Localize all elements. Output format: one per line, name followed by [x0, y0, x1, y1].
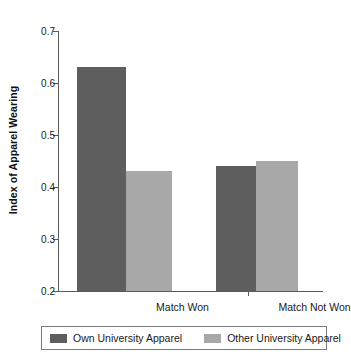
- y-axis-tick-label: 0.2: [41, 286, 55, 297]
- x-axis-tick: [248, 291, 249, 296]
- y-axis-title: Index of Apparel Wearing: [0, 0, 26, 300]
- legend-swatch-icon: [204, 334, 221, 343]
- legend-item-label: Other University Apparel: [227, 332, 341, 344]
- bar: [77, 67, 126, 291]
- legend-swatch-icon: [50, 334, 67, 343]
- y-axis-title-text: Index of Apparel Wearing: [7, 86, 19, 214]
- legend-item[interactable]: Other University Apparel: [204, 332, 341, 344]
- x-axis-tick-label: Match Not Won: [278, 301, 350, 313]
- y-axis-tick-label: 0.4: [41, 182, 55, 193]
- x-axis-tick-label: Match Won: [156, 301, 209, 313]
- y-axis-tick-label: 0.7: [41, 26, 55, 37]
- x-axis-line: [58, 291, 323, 292]
- bar: [216, 166, 256, 291]
- legend-item-label: Own University Apparel: [73, 332, 182, 344]
- y-axis-tick-label: 0.3: [41, 234, 55, 245]
- plot-area: 0.70.60.50.40.30.2 Match WonMatch Not Wo…: [58, 31, 323, 291]
- bar: [256, 161, 298, 291]
- chart-legend: Own University ApparelOther University A…: [41, 326, 327, 350]
- bar: [126, 171, 172, 291]
- y-axis-tick-label: 0.6: [41, 78, 55, 89]
- legend-item[interactable]: Own University Apparel: [50, 332, 182, 344]
- y-axis-tick-label: 0.5: [41, 130, 55, 141]
- y-axis-line: [58, 31, 59, 291]
